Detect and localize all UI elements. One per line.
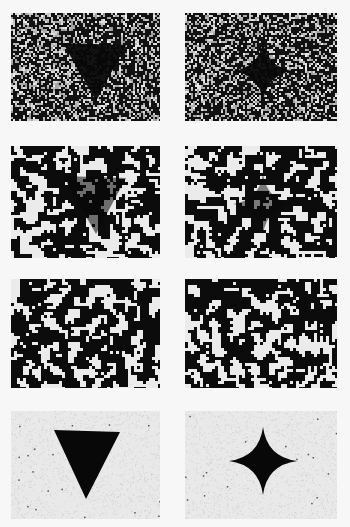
stimulus-panel-r2c1-triangle (11, 146, 160, 258)
stimulus-panel-r1c2-star4 (185, 13, 337, 121)
stimulus-panel-r2c2-star4 (185, 146, 337, 258)
stimulus-panel-r1c1-triangle (11, 13, 160, 121)
stimulus-panel-r3c2-none (185, 279, 337, 388)
stimulus-panel-r4c1-triangle (11, 411, 160, 519)
stimulus-panel-r4c2-star4 (185, 411, 337, 519)
stimulus-panel-r3c1-none (11, 279, 160, 388)
